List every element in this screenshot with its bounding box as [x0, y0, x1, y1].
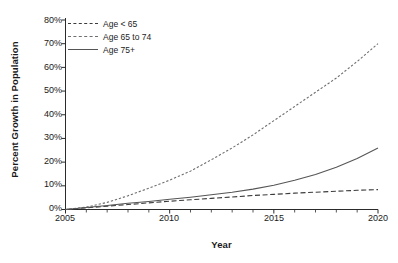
x-tick-label-2005: 2005 — [43, 214, 87, 223]
chart-legend: Age < 65 Age 65 to 74 Age 75+ — [68, 17, 151, 56]
series-line-age-65-to-74 — [66, 44, 379, 210]
y-tick-label-80: 80% — [28, 16, 62, 25]
x-axis-title: Year — [65, 239, 378, 250]
y-axis-title: Percent Growth in Population — [9, 10, 20, 210]
y-tick-label-20: 20% — [28, 157, 62, 166]
y-tick-label-50: 50% — [28, 86, 62, 95]
y-tick-label-70: 70% — [28, 39, 62, 48]
legend-solid-line-icon — [68, 45, 98, 55]
y-tick-label-60: 60% — [28, 63, 62, 72]
x-axis-major-ticks — [66, 210, 379, 214]
series-line-age-under-65 — [66, 190, 379, 210]
legend-item-age-75-plus: Age 75+ — [68, 43, 151, 56]
x-tick-label-2015: 2015 — [252, 214, 296, 223]
y-axis-ticks — [62, 20, 66, 210]
legend-item-age-65-to-74: Age 65 to 74 — [68, 30, 151, 43]
legend-item-age-under-65: Age < 65 — [68, 17, 151, 30]
x-tick-label-2020: 2020 — [356, 214, 398, 223]
chart-figure: Percent Growth in Population Year 80% 70… — [0, 0, 398, 263]
y-tick-label-10: 10% — [28, 180, 62, 189]
y-tick-label-30: 30% — [28, 133, 62, 142]
legend-label-age-under-65: Age < 65 — [103, 19, 137, 29]
x-tick-label-2010: 2010 — [147, 214, 191, 223]
legend-dotted-line-icon — [68, 32, 98, 42]
legend-label-age-65-to-74: Age 65 to 74 — [103, 32, 151, 42]
legend-label-age-75-plus: Age 75+ — [103, 45, 135, 55]
legend-dashed-line-icon — [68, 19, 98, 29]
y-tick-label-0: 0% — [28, 204, 62, 213]
y-tick-label-40: 40% — [28, 110, 62, 119]
